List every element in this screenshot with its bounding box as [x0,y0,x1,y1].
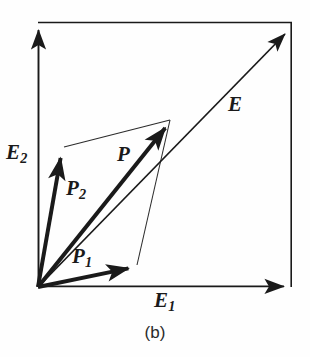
label-resultant-basis-base: E [228,92,242,116]
label-basis-2-subscript: 2 [20,150,27,166]
vector-diagram-figure: E2 E1 E P P2 P1 (b) [0,0,310,357]
figure-caption: (b) [0,323,310,343]
label-basis-1-subscript: 1 [168,298,175,314]
vector-P-arrow [38,128,165,287]
label-component-2-base: P [66,176,79,200]
label-component-2-subscript: 2 [79,186,86,202]
label-component-2: P2 [66,178,86,199]
label-basis-2: E2 [6,142,27,163]
label-resultant-base: P [117,142,130,166]
label-component-1-base: P [72,244,85,268]
label-component-1: P1 [72,246,92,267]
label-component-1-subscript: 1 [85,254,92,270]
label-basis-1-base: E [154,288,168,312]
label-basis-2-base: E [6,140,20,164]
component-vectors [38,128,165,287]
label-basis-1: E1 [154,290,175,311]
label-resultant: P [117,144,130,165]
label-resultant-basis: E [228,94,242,115]
